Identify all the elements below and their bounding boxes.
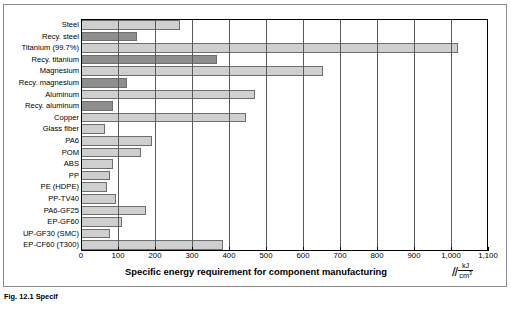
y-axis-label: Glass fiber	[5, 123, 79, 135]
bar-row	[81, 135, 488, 147]
bar	[81, 43, 458, 53]
unit-slash: //	[452, 264, 457, 279]
bar	[81, 240, 223, 250]
gridline	[451, 19, 452, 251]
gridline	[340, 19, 341, 251]
unit-denominator-base: cm	[459, 271, 469, 280]
bar	[81, 159, 113, 169]
x-tick-label: 1,100	[478, 251, 498, 260]
x-tick-label: 200	[148, 251, 161, 260]
bar-row	[81, 216, 488, 228]
bar-row	[81, 181, 488, 193]
gridline	[303, 19, 304, 251]
bar	[81, 217, 122, 227]
bar-row	[81, 19, 488, 31]
bar-row	[81, 31, 488, 43]
figure-container: SteelRecy. steelTitanium (99.7%)Recy. ti…	[0, 0, 511, 310]
bar-row	[81, 228, 488, 240]
gridline	[229, 19, 230, 251]
x-tick-label: 700	[333, 251, 346, 260]
y-axis-label: Recy. aluminum	[5, 100, 79, 112]
bar-row	[81, 205, 488, 217]
unit-fraction: kJ cm3	[458, 262, 473, 280]
y-axis-label: Recy. steel	[5, 31, 79, 43]
y-axis-label: PP	[5, 170, 79, 182]
y-axis-label: Copper	[5, 112, 79, 124]
unit-denominator-exponent: 3	[469, 270, 472, 276]
bar	[81, 182, 107, 192]
y-axis-label: EP-GF60	[5, 216, 79, 228]
bar-row	[81, 42, 488, 54]
x-tick-label: 300	[185, 251, 198, 260]
figure-caption: Fig. 12.1 Specif	[4, 292, 58, 301]
bar-row	[81, 239, 488, 251]
bar-rows	[81, 19, 488, 251]
bar	[81, 124, 105, 134]
bar-row	[81, 112, 488, 124]
x-tick-label: 600	[296, 251, 309, 260]
x-tick-label: 0	[79, 251, 83, 260]
bar-row	[81, 147, 488, 159]
y-axis-label: Steel	[5, 19, 79, 31]
gridline	[118, 19, 119, 251]
bar	[81, 101, 113, 111]
gridline	[155, 19, 156, 251]
bar-row	[81, 170, 488, 182]
bar	[81, 55, 217, 65]
gridline	[266, 19, 267, 251]
y-axis-label: PA6-GF25	[5, 205, 79, 217]
x-tick-label: 500	[259, 251, 272, 260]
gridline	[192, 19, 193, 251]
plot-area	[81, 19, 488, 251]
y-axis-label: UP-GF30 (SMC)	[5, 228, 79, 240]
bar	[81, 194, 116, 204]
y-axis-label: Titanium (99.7%)	[5, 42, 79, 54]
y-axis-label: Recy. titanium	[5, 54, 79, 66]
y-axis-label: ABS	[5, 158, 79, 170]
bar	[81, 113, 246, 123]
y-axis-label: PE (HDPE)	[5, 181, 79, 193]
y-axis-label: EP-CF60 (T300)	[5, 239, 79, 251]
bar	[81, 136, 152, 146]
bar-row	[81, 65, 488, 77]
bar	[81, 32, 137, 42]
bar	[81, 78, 127, 88]
bar	[81, 20, 180, 30]
bar-row	[81, 158, 488, 170]
bar-row	[81, 100, 488, 112]
y-axis-label: Magnesium	[5, 65, 79, 77]
x-tick-label: 1,000	[441, 251, 461, 260]
bar	[81, 171, 110, 181]
y-axis-label: PA6	[5, 135, 79, 147]
x-axis-unit: // kJ cm3	[452, 262, 473, 280]
y-axis-labels: SteelRecy. steelTitanium (99.7%)Recy. ti…	[5, 19, 79, 251]
bar	[81, 206, 146, 216]
y-axis-label: PP-TV40	[5, 193, 79, 205]
gridline	[414, 19, 415, 251]
bar-row	[81, 77, 488, 89]
y-axis-label: Recy. magnesium	[5, 77, 79, 89]
bar	[81, 148, 141, 158]
x-tick-label: 900	[407, 251, 420, 260]
x-tick-label: 400	[222, 251, 235, 260]
bar-row	[81, 193, 488, 205]
x-tick-label: 100	[111, 251, 124, 260]
x-tick-label: 800	[370, 251, 383, 260]
y-axis-label: Aluminum	[5, 89, 79, 101]
x-axis-title: Specific energy requirement for componen…	[81, 266, 431, 277]
x-axis-ticks: 01002003004005006007008009001,0001,100	[0, 251, 511, 265]
gridline	[377, 19, 378, 251]
bar-row	[81, 123, 488, 135]
bar-row	[81, 89, 488, 101]
y-axis-label: POM	[5, 147, 79, 159]
unit-denominator: cm3	[458, 271, 473, 280]
bar	[81, 229, 110, 239]
bar-row	[81, 54, 488, 66]
